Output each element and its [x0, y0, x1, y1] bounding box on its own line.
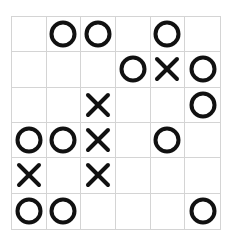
board-cell-r3-c0[interactable] [12, 123, 47, 158]
o-mark-icon [189, 55, 217, 83]
o-mark-icon [189, 197, 217, 225]
game-board [11, 16, 221, 230]
board-cell-r5-c5[interactable] [185, 194, 220, 229]
board-cell-r0-c5[interactable] [185, 17, 220, 52]
board-cell-r3-c3[interactable] [116, 123, 151, 158]
o-mark-icon [15, 197, 43, 225]
o-mark-icon [49, 197, 77, 225]
o-mark-icon [153, 126, 181, 154]
board-cell-r3-c2[interactable] [81, 123, 116, 158]
board-cell-r0-c3[interactable] [116, 17, 151, 52]
o-mark-icon [84, 20, 112, 48]
board-cell-r4-c1[interactable] [47, 158, 82, 193]
board-cell-r4-c3[interactable] [116, 158, 151, 193]
board-cell-r1-c0[interactable] [12, 52, 47, 87]
board-cell-r5-c2[interactable] [81, 194, 116, 229]
board-cell-r3-c5[interactable] [185, 123, 220, 158]
x-mark-icon [84, 161, 112, 189]
o-mark-icon [189, 91, 217, 119]
board-cell-r2-c1[interactable] [47, 88, 82, 123]
board-cell-r0-c0[interactable] [12, 17, 47, 52]
board-cell-r4-c0[interactable] [12, 158, 47, 193]
o-mark-icon [49, 126, 77, 154]
x-mark-icon [84, 91, 112, 119]
board-cell-r2-c0[interactable] [12, 88, 47, 123]
board-cell-r2-c3[interactable] [116, 88, 151, 123]
board-cell-r5-c3[interactable] [116, 194, 151, 229]
board-cell-r1-c1[interactable] [47, 52, 82, 87]
board-cell-r2-c4[interactable] [151, 88, 186, 123]
board-cell-r0-c2[interactable] [81, 17, 116, 52]
board-cell-r2-c2[interactable] [81, 88, 116, 123]
board-cell-r5-c1[interactable] [47, 194, 82, 229]
board-cell-r1-c3[interactable] [116, 52, 151, 87]
board-cell-r3-c4[interactable] [151, 123, 186, 158]
x-mark-icon [15, 161, 43, 189]
board-cell-r5-c0[interactable] [12, 194, 47, 229]
board-cell-r1-c2[interactable] [81, 52, 116, 87]
board-cell-r2-c5[interactable] [185, 88, 220, 123]
x-mark-icon [84, 126, 112, 154]
board-cell-r4-c5[interactable] [185, 158, 220, 193]
board-cell-r1-c5[interactable] [185, 52, 220, 87]
board-cell-r4-c4[interactable] [151, 158, 186, 193]
o-mark-icon [153, 20, 181, 48]
board-cell-r5-c4[interactable] [151, 194, 186, 229]
board-cell-r0-c1[interactable] [47, 17, 82, 52]
o-mark-icon [15, 126, 43, 154]
x-mark-icon [153, 55, 181, 83]
board-cell-r3-c1[interactable] [47, 123, 82, 158]
board-cell-r0-c4[interactable] [151, 17, 186, 52]
board-cell-r4-c2[interactable] [81, 158, 116, 193]
o-mark-icon [49, 20, 77, 48]
o-mark-icon [119, 55, 147, 83]
board-cell-r1-c4[interactable] [151, 52, 186, 87]
